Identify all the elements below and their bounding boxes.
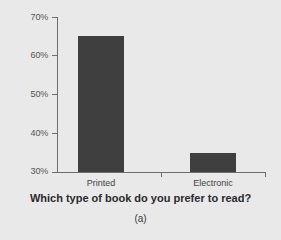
bar-electronic — [190, 153, 236, 172]
y-axis-line — [57, 17, 58, 173]
y-axis-tick-label: 50% — [6, 89, 48, 99]
figure-panel: 70% 60% 50% 40% 30% Printed Electronic W… — [0, 0, 281, 240]
y-axis-tick-label: 60% — [6, 50, 48, 60]
y-axis-tick-label: 70% — [6, 12, 48, 22]
x-axis-title: Which type of book do you prefer to read… — [0, 192, 281, 204]
figure-caption: (a) — [0, 213, 281, 224]
y-axis-tick-label: 30% — [6, 166, 48, 176]
x-axis-category-label-printed: Printed — [71, 178, 131, 188]
x-axis-tick — [265, 172, 266, 177]
x-axis-tick — [161, 172, 162, 177]
y-axis-tick-label: 40% — [6, 128, 48, 138]
bar-printed — [78, 36, 124, 172]
x-axis-category-label-electronic: Electronic — [180, 178, 246, 188]
